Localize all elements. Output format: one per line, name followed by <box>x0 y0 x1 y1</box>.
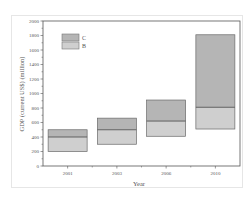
bars <box>48 35 235 152</box>
y-tick-label: 1800 <box>29 33 40 38</box>
bar-segment-c <box>97 118 136 130</box>
legend-label-c: C <box>82 35 86 41</box>
bar-segment-b <box>48 137 87 152</box>
x-tick-label: 2010 <box>210 171 221 176</box>
bar-segment-c <box>196 35 235 108</box>
x-tick-label: 2006 <box>161 171 172 176</box>
y-tick-label: 800 <box>32 106 40 111</box>
y-tick-label: 1000 <box>29 91 40 96</box>
y-tick-label: 1200 <box>29 77 40 82</box>
x-axis-title: Year <box>133 180 146 187</box>
y-axis-title: GDP (current US$) (million) <box>18 56 26 131</box>
y-tick-label: 0 <box>37 164 40 169</box>
bar-segment-b <box>97 130 136 145</box>
y-tick-label: 1600 <box>29 48 40 53</box>
bar-segment-b <box>147 121 186 136</box>
x-tick-label: 2001 <box>63 171 74 176</box>
legend-label-b: B <box>82 43 86 49</box>
bar-segment-c <box>147 100 186 121</box>
bar-segment-b <box>196 107 235 129</box>
legend-swatch-c <box>62 34 79 41</box>
box-chart: 0200400600800100012001400160018002000 20… <box>0 0 251 198</box>
x-tick-label: 2003 <box>112 171 123 176</box>
y-tick-label: 1400 <box>29 62 40 67</box>
y-tick-label: 200 <box>32 149 40 154</box>
y-tick-label: 600 <box>32 120 40 125</box>
y-axis: 0200400600800100012001400160018002000 <box>29 19 43 169</box>
y-tick-label: 2000 <box>29 19 40 24</box>
legend-swatch-b <box>62 42 79 49</box>
bar-segment-c <box>48 130 87 137</box>
x-axis: 2001200320062010 <box>63 166 221 176</box>
legend: C B <box>62 34 86 49</box>
y-tick-label: 400 <box>32 135 40 140</box>
